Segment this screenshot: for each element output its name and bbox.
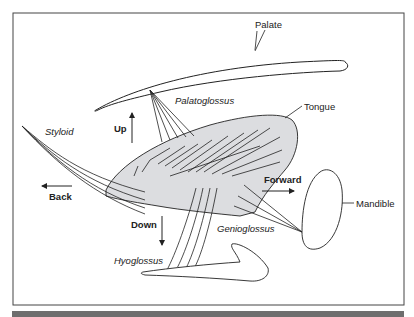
back-label: Back	[49, 191, 72, 202]
tongue-leader	[285, 106, 302, 118]
genioglossus-label: Genioglossus	[217, 223, 275, 234]
forward-label: Forward	[264, 174, 302, 185]
styloid-label: Styloid	[45, 126, 74, 137]
palate-label: Palate	[255, 19, 282, 30]
mandible-shape	[302, 170, 342, 249]
tongue-muscle-diagram: Palate Palatoglossus Tongue Styloid	[0, 0, 414, 317]
hyoglossus-label: Hyoglossus	[114, 255, 163, 266]
palatoglossus-label: Palatoglossus	[175, 95, 234, 106]
mandible-label: Mandible	[356, 198, 395, 209]
down-label: Down	[131, 219, 157, 230]
up-label: Up	[114, 123, 127, 134]
tongue-label: Tongue	[304, 101, 335, 112]
footer-bar	[12, 311, 404, 317]
